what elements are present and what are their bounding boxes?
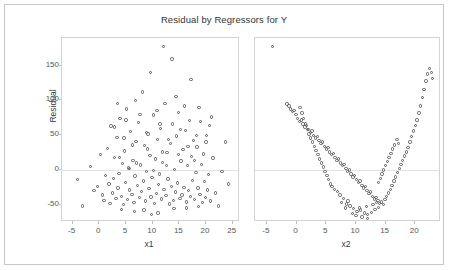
data-point	[122, 136, 125, 139]
data-point	[430, 71, 433, 74]
data-point	[118, 156, 121, 159]
data-point	[133, 174, 136, 177]
data-point	[92, 189, 95, 192]
data-point	[136, 184, 139, 187]
data-point	[198, 193, 201, 196]
x-tick-label: -5	[253, 226, 279, 235]
data-point	[177, 111, 180, 114]
y-axis-ticks: 150100500-50	[21, 37, 59, 221]
y-tick-mark	[58, 169, 61, 170]
data-point	[155, 109, 158, 112]
data-point	[118, 117, 121, 120]
data-point	[380, 172, 383, 175]
data-point	[161, 150, 164, 153]
data-point	[172, 199, 175, 202]
data-point	[76, 178, 79, 181]
data-point	[377, 206, 380, 209]
y-tick-label: 50	[29, 129, 59, 138]
data-point	[421, 96, 424, 99]
data-point	[393, 143, 396, 146]
data-point	[130, 193, 133, 196]
data-point	[294, 113, 297, 116]
x-tick-label: 15	[372, 226, 398, 235]
data-point	[115, 136, 118, 139]
data-point	[310, 129, 313, 132]
x-tick-mark	[205, 221, 206, 224]
scatter-panel-x1	[61, 37, 239, 221]
x1-axis-label: x1	[119, 239, 179, 249]
data-point	[185, 200, 188, 203]
zero-reference-line-x1	[62, 170, 238, 171]
data-point	[139, 163, 142, 166]
data-point	[168, 202, 171, 205]
data-point	[292, 109, 295, 112]
data-point	[195, 145, 198, 148]
x-tick-label: 0	[85, 226, 111, 235]
x-tick-label: 10	[139, 226, 165, 235]
data-point	[370, 211, 373, 214]
data-point	[366, 213, 369, 216]
data-point	[187, 189, 190, 192]
data-point	[202, 152, 205, 155]
data-point	[176, 181, 179, 184]
data-point	[386, 160, 389, 163]
data-point	[111, 191, 114, 194]
data-point	[304, 122, 307, 125]
data-point	[405, 150, 408, 153]
data-point	[204, 196, 207, 199]
data-point	[188, 119, 191, 122]
data-point	[325, 174, 328, 177]
data-point	[114, 197, 117, 200]
data-point	[366, 217, 369, 220]
data-point	[377, 181, 380, 184]
data-point	[141, 90, 144, 93]
data-point	[162, 188, 165, 191]
data-point	[401, 159, 404, 162]
data-point	[107, 182, 110, 185]
data-point	[316, 135, 319, 138]
data-point	[415, 118, 418, 121]
data-point	[302, 117, 305, 120]
data-point	[200, 163, 203, 166]
data-point	[144, 199, 147, 202]
data-point	[152, 169, 155, 172]
data-point	[124, 181, 127, 184]
data-point	[271, 45, 274, 48]
data-point	[125, 107, 128, 110]
data-point	[137, 121, 140, 124]
data-point	[384, 164, 387, 167]
data-point	[365, 205, 368, 208]
data-point	[124, 118, 127, 121]
data-point	[414, 124, 417, 127]
data-point	[116, 186, 119, 189]
data-point	[186, 164, 189, 167]
data-point	[128, 188, 131, 191]
data-point	[185, 206, 188, 209]
data-point	[389, 188, 392, 191]
data-point	[122, 203, 125, 206]
data-point	[165, 164, 168, 167]
data-point	[224, 140, 227, 143]
data-point	[155, 192, 158, 195]
x-tick-mark	[98, 221, 99, 224]
y-tick-label: -50	[29, 199, 59, 208]
data-point	[309, 136, 312, 139]
data-point	[424, 79, 427, 82]
data-point	[129, 130, 132, 133]
x-tick-mark	[325, 221, 326, 224]
x-tick-mark	[125, 221, 126, 224]
data-point	[329, 182, 332, 185]
x-tick-mark	[414, 221, 415, 224]
data-point	[382, 203, 385, 206]
y-tick-label: 100	[29, 94, 59, 103]
x-tick-label: 20	[192, 226, 218, 235]
data-point	[150, 176, 153, 179]
x-tick-mark	[178, 221, 179, 224]
data-point	[387, 156, 390, 159]
data-point	[209, 199, 212, 202]
data-point	[158, 122, 161, 125]
data-point	[112, 177, 115, 180]
data-point	[167, 138, 170, 141]
chart-frame: Residual by Regressors for Y Residual 15…	[4, 4, 444, 265]
data-point	[194, 171, 197, 174]
